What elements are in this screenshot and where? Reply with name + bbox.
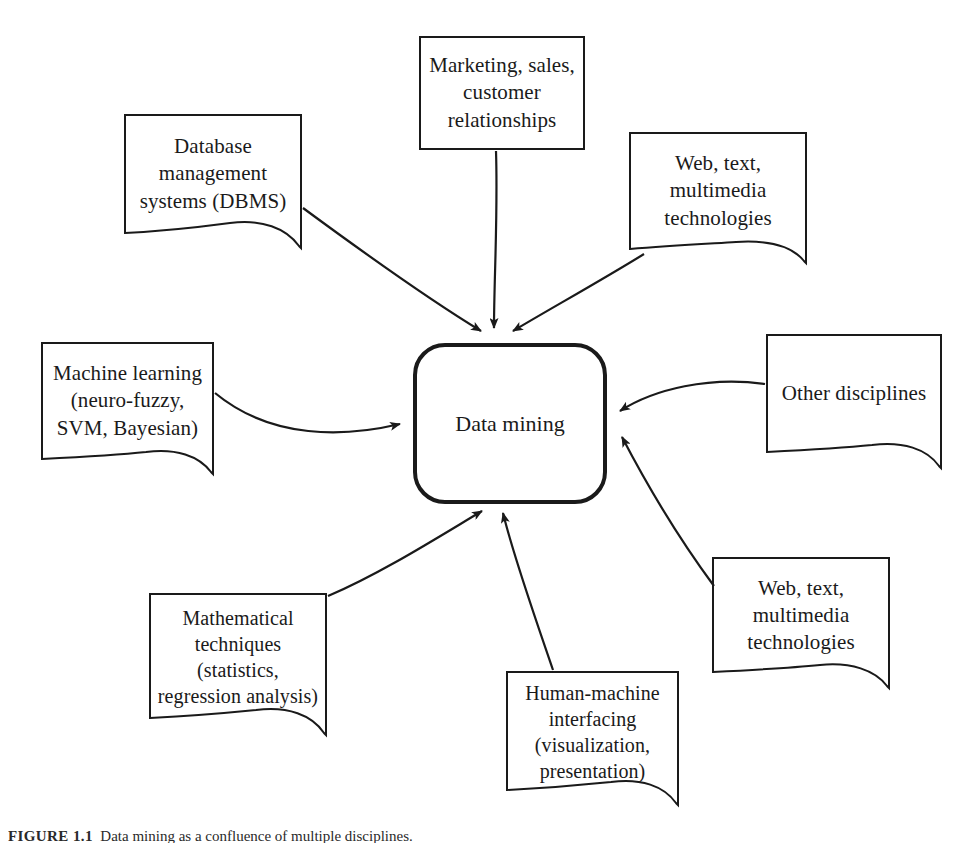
node-shape-web-text-multimedia-technologies-top bbox=[630, 133, 806, 263]
arrow-dbms-to-center bbox=[303, 208, 481, 331]
node-shape-marketing-sales-customer-relationships bbox=[420, 37, 584, 149]
arrow-web-bottom-to-center bbox=[622, 437, 714, 586]
arrow-human-machine-to-center bbox=[503, 513, 553, 670]
node-shape-database-management-systems bbox=[125, 115, 301, 248]
center-node-shape bbox=[415, 345, 605, 502]
figure-container: Database management systems (DBMS) Marke… bbox=[0, 0, 972, 843]
arrow-web-top-to-center bbox=[513, 254, 644, 331]
arrow-other-disciplines-to-center bbox=[620, 382, 765, 411]
diagram-canvas bbox=[0, 0, 972, 843]
figure-caption: FIGURE 1.1 Data mining as a confluence o… bbox=[8, 828, 708, 843]
figure-caption-text: Data mining as a confluence of multiple … bbox=[100, 828, 412, 843]
figure-caption-id: FIGURE 1.1 bbox=[8, 828, 93, 843]
node-shape-other-disciplines bbox=[767, 335, 941, 468]
node-shape-human-machine-interfacing bbox=[507, 672, 678, 805]
node-shape-mathematical-techniques bbox=[150, 594, 326, 735]
arrow-mathematical-to-center bbox=[328, 511, 482, 596]
arrow-marketing-to-center bbox=[494, 151, 497, 328]
node-shape-machine-learning bbox=[42, 343, 213, 474]
node-shape-web-text-multimedia-technologies-bottom bbox=[713, 558, 889, 688]
arrow-machine-learning-to-center bbox=[215, 393, 400, 432]
